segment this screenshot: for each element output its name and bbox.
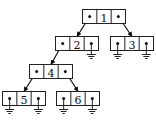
node-label: 1 — [101, 12, 108, 25]
node-label: 4 — [48, 67, 55, 80]
right-pointer-dot — [64, 70, 67, 73]
tree-diagram: 123456 — [0, 0, 156, 124]
left-pointer-dot — [88, 15, 91, 18]
right-pointer-dot — [117, 15, 120, 18]
node-label: 2 — [74, 39, 81, 52]
node-label: 6 — [75, 94, 82, 107]
node-label: 3 — [129, 39, 136, 52]
tree-node-1: 1 — [83, 10, 126, 25]
tree-node-2: 2 — [56, 37, 99, 59]
nodes-layer: 123456 — [3, 10, 154, 114]
tree-svg: 123456 — [0, 0, 156, 124]
left-pointer-dot — [61, 42, 64, 45]
tree-node-5: 5 — [3, 92, 46, 114]
left-pointer-dot — [35, 70, 38, 73]
tree-node-3: 3 — [111, 37, 154, 59]
tree-node-4: 4 — [30, 65, 73, 80]
node-label: 5 — [21, 94, 28, 107]
tree-node-6: 6 — [57, 92, 100, 114]
